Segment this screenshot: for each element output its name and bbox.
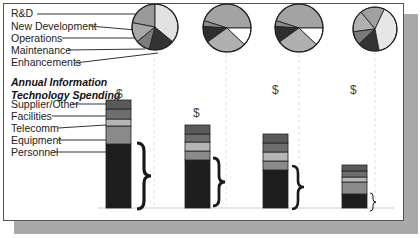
bar-segment-equipment [342, 182, 367, 194]
bar-segment-equipment [185, 151, 210, 160]
pie-chart-4 [353, 7, 397, 51]
bar-total-label-4: $ [350, 83, 357, 97]
bar-segment-facilities [185, 134, 210, 142]
legend-new-development: New Development [11, 20, 97, 32]
bar-3 [263, 134, 288, 208]
bar-segment-telecomm [263, 152, 288, 161]
bar-total-label-1: $ [116, 87, 123, 101]
bar-segment-supplier-other [263, 134, 288, 143]
bar-segment-facilities [342, 171, 367, 177]
pie-chart-3 [275, 4, 323, 52]
legend-supplier-other: Supplier/Other [11, 98, 79, 110]
bar-legend: Supplier/Other Facilities Telecomm Equip… [11, 98, 106, 158]
chart-title-line1: Annual Information [10, 76, 107, 88]
bar-segment-telecomm [106, 119, 131, 126]
bar-total-label-2: $ [193, 106, 200, 120]
legend-equipment: Equipment [11, 134, 61, 146]
bar-segment-personnel [263, 170, 288, 208]
pie-charts [132, 4, 397, 52]
legend-enhancements: Enhancements [11, 56, 81, 68]
bar-4 [342, 165, 367, 208]
personnel-braces [137, 143, 376, 211]
legend-maintenance: Maintenance [11, 44, 71, 56]
pie-chart-1 [132, 4, 178, 50]
legend-telecomm: Telecomm [11, 122, 59, 134]
bar-segment-personnel [185, 160, 210, 208]
legend-personnel: Personnel [11, 146, 58, 158]
bar-segment-facilities [263, 143, 288, 152]
bar-segment-telecomm [185, 142, 210, 151]
bar-total-label-3: $ [272, 83, 279, 97]
legend-rd: R&D [11, 7, 34, 19]
bar-segment-personnel [342, 194, 367, 208]
bar-segment-personnel [106, 144, 131, 208]
bar-segment-supplier-other [342, 165, 367, 171]
bar-segment-supplier-other [106, 100, 131, 109]
bar-segment-equipment [106, 126, 131, 144]
legend-facilities: Facilities [11, 110, 52, 122]
bar-segment-facilities [106, 109, 131, 119]
chart-canvas: R&D New Development Operations Maintenan… [0, 0, 420, 238]
bar-1 [106, 100, 131, 208]
legend-operations: Operations [11, 32, 62, 44]
pie-chart-2 [203, 4, 251, 52]
bar-segment-telecomm [342, 177, 367, 182]
bar-segment-supplier-other [185, 125, 210, 134]
bar-2 [185, 125, 210, 208]
bar-segment-equipment [263, 161, 288, 170]
